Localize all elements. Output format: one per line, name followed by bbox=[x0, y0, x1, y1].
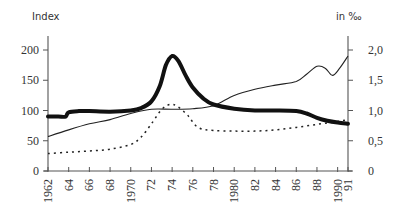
line-chart: Index in ‰ 050100150200 00,51,01,52,0 19… bbox=[0, 0, 396, 214]
x-tick-label: 66 bbox=[82, 179, 96, 191]
left-tick-label: 100 bbox=[21, 104, 39, 118]
x-tick-label: 68 bbox=[103, 179, 117, 191]
right-tick-label: 0,5 bbox=[368, 134, 383, 148]
x-tick-label: 78 bbox=[207, 179, 221, 191]
x-tick-label: 1970 bbox=[124, 179, 138, 203]
left-y-axis-ticks: 050100150200 bbox=[21, 43, 48, 178]
left-tick-label: 200 bbox=[21, 43, 39, 57]
data-series bbox=[48, 56, 348, 154]
right-axis-label: in ‰ bbox=[336, 11, 362, 22]
x-tick-label: 91 bbox=[341, 179, 355, 191]
x-axis-ticks: 1962646668197072747678198082848688199091 bbox=[41, 167, 355, 203]
x-tick-label: 84 bbox=[269, 179, 283, 191]
right-tick-label: 0 bbox=[368, 164, 374, 178]
svg-text:Index: Index bbox=[32, 11, 60, 22]
x-tick-label: 64 bbox=[62, 179, 76, 191]
x-tick-label: 72 bbox=[144, 179, 158, 191]
x-tick-label: 1962 bbox=[41, 179, 55, 203]
left-tick-label: 50 bbox=[27, 134, 39, 148]
x-tick-label: 76 bbox=[186, 179, 200, 191]
x-tick-label: 88 bbox=[310, 179, 324, 191]
right-tick-label: 1,0 bbox=[368, 104, 383, 118]
svg-text:in ‰: in ‰ bbox=[336, 11, 362, 22]
x-tick-label: 1980 bbox=[227, 179, 241, 203]
x-tick-label: 82 bbox=[248, 179, 262, 191]
x-tick-label: 74 bbox=[165, 179, 179, 191]
x-tick-label: 86 bbox=[289, 179, 303, 191]
right-y-axis-ticks: 00,51,01,52,0 bbox=[348, 43, 383, 178]
left-tick-label: 150 bbox=[21, 73, 39, 87]
left-axis-label: Index bbox=[32, 11, 60, 22]
right-tick-label: 1,5 bbox=[368, 73, 383, 87]
left-tick-label: 0 bbox=[33, 164, 39, 178]
series-thick-line-index bbox=[48, 56, 348, 124]
right-tick-label: 2,0 bbox=[368, 43, 383, 57]
